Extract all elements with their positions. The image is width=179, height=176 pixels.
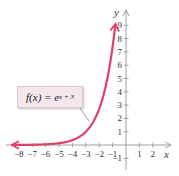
x-tick-label: 1: [137, 149, 142, 159]
y-tick-label: 3: [118, 100, 123, 110]
x-tick-label: −8: [14, 149, 24, 159]
y-axis-label: y: [113, 6, 119, 18]
y-tick-label: 1: [118, 127, 123, 137]
x-tick-label: −4: [68, 149, 78, 159]
y-tick-label: 5: [118, 74, 123, 84]
function-curve: [12, 25, 115, 145]
x-tick-label: −2: [94, 149, 104, 159]
function-label-exponent: x + 3: [59, 93, 74, 101]
function-label-box: f(x) = ex + 3: [17, 86, 83, 108]
y-tick-label: 8: [118, 34, 123, 44]
y-tick-label: 6: [118, 60, 123, 70]
x-tick-label: −7: [27, 149, 37, 159]
y-tick-label: −1: [112, 153, 122, 163]
x-tick-label: −6: [41, 149, 51, 159]
label-leader-line: [80, 108, 89, 121]
x-tick-label: 2: [151, 149, 156, 159]
y-tick-label: 2: [118, 113, 123, 123]
y-tick-label: 4: [118, 87, 123, 97]
x-axis-label: x: [163, 148, 169, 160]
x-tick-label: −5: [54, 149, 64, 159]
function-label-lhs: f(x) = e: [26, 91, 59, 103]
y-tick-label: 7: [118, 47, 123, 57]
x-tick-label: −3: [81, 149, 91, 159]
